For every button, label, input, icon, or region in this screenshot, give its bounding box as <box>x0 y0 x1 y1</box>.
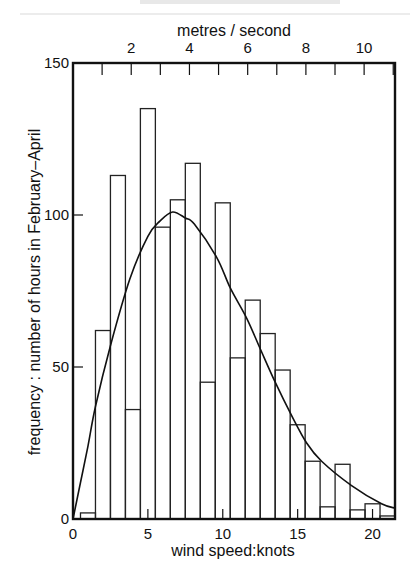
x-tick-label: 15 <box>289 525 306 542</box>
x-tick-label: 0 <box>69 525 77 542</box>
axis-tick-labels: 05101520246810050100150 <box>44 39 381 542</box>
histogram-bar <box>305 461 320 519</box>
histogram-bar <box>140 109 155 519</box>
x-axis-title: wind speed:knots <box>170 542 295 559</box>
histogram-bar <box>290 425 305 519</box>
histogram-bar <box>170 200 185 519</box>
fitted-curve <box>73 212 395 519</box>
x2-tick-label: 8 <box>302 39 310 56</box>
x2-tick-label: 6 <box>244 39 252 56</box>
histogram-bar <box>95 331 110 519</box>
x2-axis-title: metres / second <box>177 22 291 39</box>
histogram-bar <box>275 370 290 519</box>
histogram-bar <box>230 358 245 519</box>
x2-tick-label: 4 <box>185 39 193 56</box>
histogram-bar <box>215 203 230 519</box>
histogram-bars <box>80 109 395 519</box>
y-tick-label: 150 <box>44 54 69 71</box>
plot-frame <box>73 63 395 519</box>
histogram-bar <box>185 163 200 519</box>
histogram-bar <box>320 507 335 519</box>
y-axis-title: frequency : number of hours in February–… <box>26 129 43 455</box>
histogram-bar <box>125 410 140 519</box>
histogram-bar <box>155 227 170 519</box>
histogram-bar <box>110 175 125 519</box>
y-tick-label: 0 <box>61 510 69 527</box>
x2-tick-label: 10 <box>356 39 373 56</box>
y-tick-label: 100 <box>44 206 69 223</box>
histogram-bar <box>335 464 350 519</box>
histogram-chart: 05101520246810050100150 metres / second … <box>0 0 417 583</box>
x-tick-label: 10 <box>214 525 231 542</box>
x-tick-label: 20 <box>364 525 381 542</box>
histogram-bar <box>260 334 275 519</box>
x2-tick-label: 2 <box>127 39 135 56</box>
histogram-bar <box>200 382 215 519</box>
x-tick-label: 5 <box>144 525 152 542</box>
y-tick-label: 50 <box>52 358 69 375</box>
histogram-bar <box>350 510 365 519</box>
